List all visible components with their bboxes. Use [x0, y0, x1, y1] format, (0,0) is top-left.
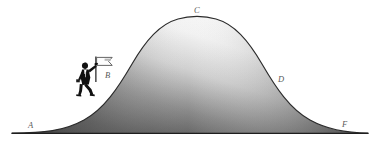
curve-label-d: D: [278, 75, 284, 84]
curve-label-a: A: [28, 121, 33, 130]
bell-curve-area: [0, 0, 376, 151]
bell-curve-illustration: [0, 0, 376, 151]
curve-label-c: C: [194, 6, 200, 15]
climber-leg-front: [84, 84, 93, 95]
flag-banner-fill-block: [105, 59, 111, 61]
climber-briefcase: [76, 79, 80, 82]
curve-label-b: B: [105, 71, 110, 80]
climber-leg-back: [78, 84, 83, 95]
illustration-canvas: A B C D F: [0, 0, 376, 151]
curve-label-f: F: [342, 120, 347, 129]
